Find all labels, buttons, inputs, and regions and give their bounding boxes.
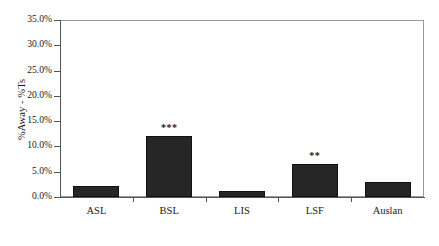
x-category-label: ASL bbox=[60, 205, 133, 216]
y-tick-label: 5.0% bbox=[0, 165, 52, 176]
y-tick-label: 15.0% bbox=[0, 114, 52, 125]
bar[interactable] bbox=[219, 191, 265, 197]
x-category-label: BSL bbox=[133, 205, 206, 216]
bar-slot bbox=[60, 20, 133, 197]
bars-layer: ***** bbox=[60, 20, 424, 197]
x-tick-mark bbox=[206, 197, 207, 202]
y-tick-label: 35.0% bbox=[0, 13, 52, 24]
y-tick-label: 30.0% bbox=[0, 38, 52, 49]
y-axis-title: %Away - %Ts bbox=[16, 40, 27, 180]
bar[interactable] bbox=[73, 186, 119, 197]
x-tick-mark bbox=[133, 197, 134, 202]
y-tick-label: 0.0% bbox=[0, 190, 52, 201]
y-tick-mark bbox=[54, 197, 60, 198]
x-axis-line bbox=[60, 197, 425, 198]
bar-slot bbox=[351, 20, 424, 197]
x-category-label: Auslan bbox=[351, 205, 424, 216]
bar-slot bbox=[206, 20, 279, 197]
bar-slot: ** bbox=[278, 20, 351, 197]
bar[interactable] bbox=[365, 182, 411, 197]
bar-chart: %Away - %Ts 0.0%5.0%10.0%15.0%20.0%25.0%… bbox=[0, 0, 439, 246]
bar[interactable] bbox=[292, 164, 338, 197]
x-tick-mark bbox=[351, 197, 352, 202]
y-tick-label: 10.0% bbox=[0, 139, 52, 150]
x-tick-mark bbox=[278, 197, 279, 202]
y-tick-label: 25.0% bbox=[0, 64, 52, 75]
bar[interactable] bbox=[146, 136, 192, 197]
x-category-label: LSF bbox=[278, 205, 351, 216]
bar-slot: *** bbox=[133, 20, 206, 197]
bar-significance-annotation: *** bbox=[161, 122, 178, 133]
y-tick-label: 20.0% bbox=[0, 89, 52, 100]
bar-significance-annotation: ** bbox=[309, 150, 320, 161]
x-category-label: LIS bbox=[206, 205, 279, 216]
